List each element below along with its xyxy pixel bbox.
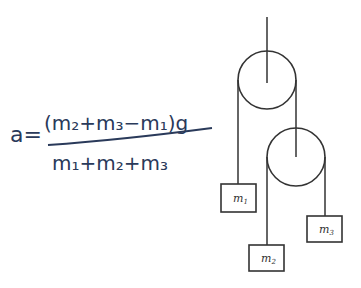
equation-lhs: a= bbox=[10, 122, 42, 147]
diagram-canvas: a= (m₂+m₃−m₁)g m₁+m₂+m₃ m1 m2 m3 bbox=[0, 0, 361, 288]
mass-m1: m1 bbox=[221, 184, 256, 212]
equation-denominator: m₁+m₂+m₃ bbox=[52, 151, 168, 175]
mass-m3: m3 bbox=[307, 216, 342, 242]
equation-numerator: (m₂+m₃−m₁)g bbox=[44, 111, 188, 135]
mass-m2: m2 bbox=[249, 245, 284, 271]
equation: a= (m₂+m₃−m₁)g m₁+m₂+m₃ bbox=[10, 111, 212, 175]
